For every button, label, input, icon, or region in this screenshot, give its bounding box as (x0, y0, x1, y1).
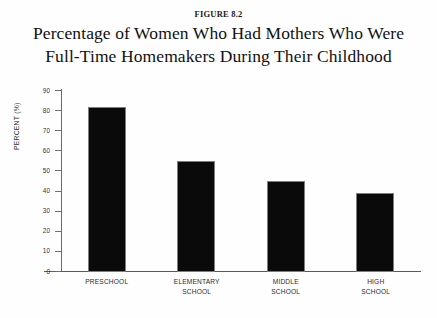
y-tick-mark (55, 271, 61, 272)
x-axis-label-line: MIDDLE (246, 277, 325, 287)
y-tick-label: 60 (31, 146, 50, 155)
x-axis-label-line: ELEMENTARY (157, 277, 236, 287)
bar (356, 193, 394, 272)
y-tick-label: 40 (31, 186, 50, 195)
y-tick-label: 70 (31, 126, 50, 135)
figure-title: Percentage of Women Who Had Mothers Who … (0, 22, 437, 68)
y-tick-mark (55, 150, 61, 151)
y-tick-mark (55, 211, 61, 212)
x-axis-label-line: HIGH (336, 277, 415, 287)
y-tick-mark (55, 110, 61, 111)
y-tick-label-wrap: 40 (24, 186, 50, 195)
figure-title-line-1: Percentage of Women Who Had Mothers Who … (0, 22, 437, 45)
y-tick-mark (55, 130, 61, 131)
figure-title-line-2: Full-Time Homemakers During Their Childh… (0, 45, 437, 68)
y-tick-label-wrap: 80 (24, 106, 50, 115)
y-tick-mark (55, 191, 61, 192)
y-tick-label-wrap: 30 (24, 206, 50, 215)
x-axis-label: ELEMENTARYSCHOOL (157, 277, 236, 297)
y-tick-label-wrap: 20 (24, 226, 50, 235)
x-axis-label-line: SCHOOL (157, 287, 236, 297)
y-tick-label-wrap: 10 (24, 246, 50, 255)
y-tick-label: 50 (31, 166, 50, 175)
x-axis-label: MIDDLESCHOOL (246, 277, 325, 297)
bar (177, 161, 215, 272)
y-tick-label: 0 (31, 267, 50, 276)
x-axis-label-line: PRESCHOOL (67, 277, 146, 287)
x-axis-label-line: SCHOOL (246, 287, 325, 297)
x-axis-label-line: SCHOOL (336, 287, 415, 297)
x-axis-label: HIGHSCHOOL (336, 277, 415, 297)
bars-group (62, 90, 420, 272)
bar (88, 107, 126, 272)
x-axis-label: PRESCHOOL (67, 277, 146, 287)
y-tick-label: 10 (31, 246, 50, 255)
y-tick-label-wrap: 50 (24, 166, 50, 175)
y-tick-mark (55, 170, 61, 171)
figure-container: FIGURE 8.2 Percentage of Women Who Had M… (0, 0, 437, 318)
y-tick-label: 90 (31, 86, 50, 95)
y-tick-label: 20 (31, 226, 50, 235)
y-tick-mark (55, 90, 61, 91)
y-tick-label: 80 (31, 106, 50, 115)
y-tick-label-wrap: 0 (24, 267, 50, 276)
bar (267, 181, 305, 273)
y-tick-mark (55, 251, 61, 252)
y-tick-label-wrap: 70 (24, 126, 50, 135)
y-tick-label-wrap: 60 (24, 146, 50, 155)
y-tick-label: 30 (31, 206, 50, 215)
figure-number: FIGURE 8.2 (0, 9, 437, 19)
y-tick-mark (55, 231, 61, 232)
y-tick-label-wrap: 90 (24, 86, 50, 95)
y-axis-title: PERCENT (%) (12, 103, 21, 150)
